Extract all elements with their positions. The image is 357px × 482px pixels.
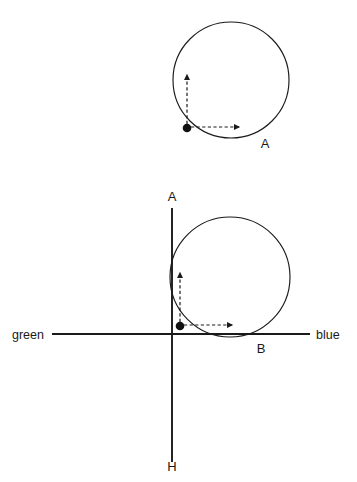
figure-canvas: A A H green blue B (0, 0, 357, 482)
horizontal-axis-right-label: blue (316, 328, 340, 342)
bottom-sample-point (176, 322, 185, 331)
diagram-svg: A A H green blue B (0, 0, 357, 482)
top-panel: A (173, 22, 289, 151)
vertical-axis-bottom-label: H (167, 459, 176, 474)
bottom-hue-circle (170, 217, 290, 337)
top-circle-label: A (261, 136, 270, 151)
horizontal-axis-left-label: green (12, 328, 44, 342)
bottom-circle-label: B (257, 341, 266, 356)
vertical-axis-top-label: A (168, 189, 177, 204)
top-sample-point (183, 124, 192, 133)
bottom-panel: A H green blue B (12, 189, 340, 474)
top-hue-circle (173, 22, 289, 138)
